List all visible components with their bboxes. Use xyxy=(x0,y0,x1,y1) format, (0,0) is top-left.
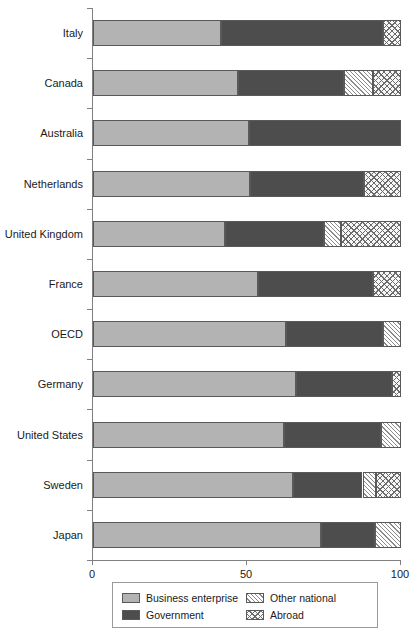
stacked-bar[interactable] xyxy=(93,472,401,498)
bar-segment[interactable] xyxy=(93,120,249,146)
bar-segment[interactable] xyxy=(221,20,383,46)
bar-segment[interactable] xyxy=(93,472,293,498)
category-label: Italy xyxy=(63,27,83,39)
bar-segment[interactable] xyxy=(363,472,377,498)
x-tick-label: 50 xyxy=(240,568,252,580)
legend-item[interactable]: Other national xyxy=(246,592,370,604)
legend-swatch-other xyxy=(246,593,264,603)
legend-swatch-business xyxy=(122,593,140,603)
bar-segment[interactable] xyxy=(392,371,401,397)
bar-row: OECD xyxy=(92,321,400,347)
category-label: Australia xyxy=(40,127,83,139)
bar-segment[interactable] xyxy=(321,522,375,548)
stacked-bar[interactable] xyxy=(93,221,401,247)
bar-segment[interactable] xyxy=(93,371,296,397)
bar-segment[interactable] xyxy=(383,321,401,347)
bar-segment[interactable] xyxy=(258,271,374,297)
chart-legend: Business enterpriseOther nationalGovernm… xyxy=(112,582,378,628)
bar-segment[interactable] xyxy=(341,221,401,247)
bar-row: Netherlands xyxy=(92,171,400,197)
stacked-bar[interactable] xyxy=(93,371,401,397)
bar-segment[interactable] xyxy=(93,20,221,46)
bar-segment[interactable] xyxy=(286,321,383,347)
bar-segment[interactable] xyxy=(383,20,401,46)
legend-swatch-abroad xyxy=(246,610,264,620)
bar-row: Japan xyxy=(92,522,400,548)
stacked-bar[interactable] xyxy=(93,422,401,448)
category-label: United Kingdom xyxy=(5,228,83,240)
bar-row: France xyxy=(92,271,400,297)
y-tick-mark xyxy=(87,409,92,410)
stacked-bar[interactable] xyxy=(93,70,401,96)
bar-segment[interactable] xyxy=(296,371,391,397)
bar-row: Sweden xyxy=(92,472,400,498)
stacked-bar-chart: 050100 ItalyCanadaAustraliaNetherlandsUn… xyxy=(0,0,417,635)
bar-segment[interactable] xyxy=(373,271,401,297)
y-tick-mark xyxy=(87,359,92,360)
y-tick-mark xyxy=(87,159,92,160)
bar-segment[interactable] xyxy=(225,221,324,247)
bar-row: Canada xyxy=(92,70,400,96)
category-label: OECD xyxy=(51,328,83,340)
category-label: France xyxy=(49,278,83,290)
category-label: United States xyxy=(17,429,83,441)
x-tick-label: 100 xyxy=(391,568,409,580)
bar-segment[interactable] xyxy=(324,221,341,247)
y-tick-mark xyxy=(87,309,92,310)
bar-segment[interactable] xyxy=(376,472,401,498)
stacked-bar[interactable] xyxy=(93,120,401,146)
stacked-bar[interactable] xyxy=(93,271,401,297)
bar-segment[interactable] xyxy=(93,522,321,548)
y-tick-mark xyxy=(87,209,92,210)
legend-item[interactable]: Abroad xyxy=(246,609,370,621)
legend-item[interactable]: Government xyxy=(122,609,246,621)
x-tick-mark xyxy=(246,560,247,565)
category-label: Japan xyxy=(53,529,83,541)
y-tick-mark xyxy=(87,560,92,561)
category-label: Germany xyxy=(38,378,83,390)
bar-segment[interactable] xyxy=(381,422,401,448)
stacked-bar[interactable] xyxy=(93,171,401,197)
bar-row: Italy xyxy=(92,20,400,46)
bar-segment[interactable] xyxy=(238,70,344,96)
bar-segment[interactable] xyxy=(375,522,401,548)
bar-segment[interactable] xyxy=(93,171,250,197)
legend-label: Abroad xyxy=(270,609,304,621)
bar-segment[interactable] xyxy=(93,321,286,347)
bar-segment[interactable] xyxy=(249,120,401,146)
bar-segment[interactable] xyxy=(344,70,373,96)
plot-area: 050100 ItalyCanadaAustraliaNetherlandsUn… xyxy=(92,8,400,560)
y-tick-mark xyxy=(87,460,92,461)
y-tick-mark xyxy=(87,259,92,260)
category-label: Sweden xyxy=(43,479,83,491)
legend-swatch-government xyxy=(122,610,140,620)
y-tick-mark xyxy=(87,8,92,9)
bar-segment[interactable] xyxy=(373,70,401,96)
x-tick-label: 0 xyxy=(89,568,95,580)
y-tick-mark xyxy=(87,510,92,511)
category-label: Netherlands xyxy=(24,178,83,190)
legend-label: Business enterprise xyxy=(146,592,238,604)
bar-segment[interactable] xyxy=(93,221,225,247)
bar-segment[interactable] xyxy=(284,422,381,448)
legend-label: Government xyxy=(146,609,204,621)
stacked-bar[interactable] xyxy=(93,522,401,548)
x-tick-mark xyxy=(400,560,401,565)
x-tick-mark xyxy=(92,560,93,565)
bar-row: Australia xyxy=(92,120,400,146)
bar-segment[interactable] xyxy=(93,422,284,448)
bar-segment[interactable] xyxy=(93,271,258,297)
stacked-bar[interactable] xyxy=(93,321,401,347)
category-label: Canada xyxy=(44,77,83,89)
bar-segment[interactable] xyxy=(93,70,238,96)
bar-segment[interactable] xyxy=(250,171,364,197)
legend-item[interactable]: Business enterprise xyxy=(122,592,246,604)
legend-grid: Business enterpriseOther nationalGovernm… xyxy=(122,589,370,623)
y-tick-mark xyxy=(87,108,92,109)
bar-row: Germany xyxy=(92,371,400,397)
bar-row: United Kingdom xyxy=(92,221,400,247)
bar-row: United States xyxy=(92,422,400,448)
bar-segment[interactable] xyxy=(293,472,362,498)
bar-segment[interactable] xyxy=(364,171,401,197)
stacked-bar[interactable] xyxy=(93,20,401,46)
